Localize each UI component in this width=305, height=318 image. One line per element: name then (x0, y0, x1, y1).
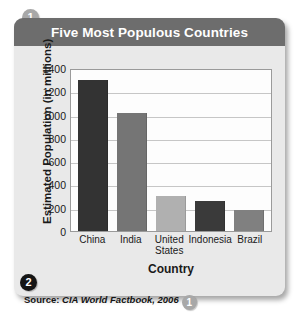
bar (234, 210, 264, 231)
x-axis-title: Country (70, 262, 272, 276)
bar (117, 113, 147, 231)
x-axis-tick-label: Indonesia (189, 234, 231, 256)
y-axis-tick-label: 800 (48, 133, 66, 145)
y-axis-tick-labels: 0200400600800100012001400 (36, 69, 66, 232)
bar (195, 201, 225, 231)
y-axis-tick-label: 0 (60, 226, 66, 238)
callout-badge-1-source: 1 (182, 295, 197, 310)
y-axis-tick-label: 200 (48, 203, 66, 215)
x-axis-tick-label: China (73, 234, 112, 256)
chart-panel: 1 Five Most Populous Countries Estimated… (14, 18, 285, 296)
page-title: Five Most Populous Countries (51, 25, 248, 40)
x-axis-tick-label: India (112, 234, 151, 256)
bar (156, 196, 186, 231)
bar (78, 80, 108, 231)
source-label: Source: (24, 294, 59, 305)
chart-title-bar: Five Most Populous Countries (14, 18, 285, 46)
y-axis-tick-label: 400 (48, 179, 66, 191)
x-axis-tick-label: Brazil (231, 234, 270, 256)
y-axis-tick-label: 1000 (43, 110, 66, 122)
y-axis-tick-label: 1400 (43, 63, 66, 75)
source-text: CIA World Factbook, 2006 (62, 294, 179, 305)
callout-badge-2-label: 2 (25, 277, 31, 288)
chart-body: Estimated Population (in millions) 02004… (14, 46, 285, 296)
source-note: Source: CIA World Factbook, 20061 (24, 294, 197, 310)
bar-series (71, 70, 271, 231)
y-axis-tick-label: 600 (48, 156, 66, 168)
callout-badge-2: 2 (20, 274, 37, 291)
x-axis-tick-labels: ChinaIndiaUnited StatesIndonesiaBrazil (70, 234, 272, 256)
plot-area (70, 69, 272, 232)
y-axis-tick-label: 1200 (43, 86, 66, 98)
x-axis-tick-label: United States (150, 234, 189, 256)
